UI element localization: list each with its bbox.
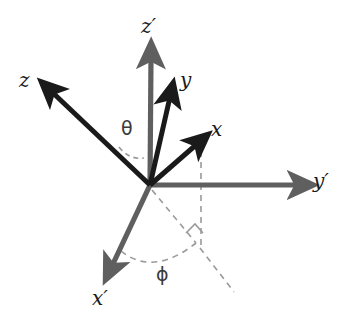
axis-z-prime xyxy=(150,58,151,185)
axis-x-prime xyxy=(112,185,150,266)
dashed-projection-extension xyxy=(200,248,234,292)
axis-label-x: x xyxy=(211,119,222,139)
axis-label-y: y xyxy=(180,70,191,90)
dashed-origin-to-projection xyxy=(152,190,196,243)
phi-arc xyxy=(121,243,196,262)
axis-label-y-prime: y′ xyxy=(313,171,329,191)
axes-vector-graphic xyxy=(0,0,346,328)
axis-z xyxy=(52,92,150,185)
primed-axes xyxy=(112,58,298,266)
angle-label-phi: ϕ xyxy=(156,265,169,284)
axis-label-x-prime: x′ xyxy=(92,288,108,308)
axis-label-z-prime: z′ xyxy=(141,16,156,36)
angle-label-theta: θ xyxy=(121,119,133,138)
diagram-canvas: z′ z y x y′ x′ θ ϕ xyxy=(0,0,346,328)
axis-label-z: z xyxy=(19,70,30,90)
